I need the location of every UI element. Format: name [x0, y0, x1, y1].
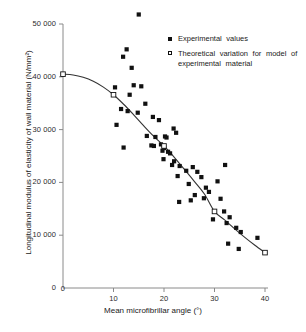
y-tick-label: 20 000 — [0, 177, 56, 186]
data-point-experimental — [151, 115, 155, 119]
data-point-experimental — [204, 186, 208, 190]
data-point-theoretical — [162, 144, 167, 149]
data-point-experimental — [225, 221, 229, 225]
legend-item-theoretical: Theoretical variation for model of exper… — [168, 49, 300, 70]
data-point-experimental — [228, 215, 232, 219]
y-tick-label: 30 000 — [0, 125, 56, 134]
data-point-experimental — [178, 164, 182, 168]
data-point-experimental — [164, 135, 168, 139]
open-square-icon — [168, 49, 178, 56]
y-tick-label: 10 000 — [0, 230, 56, 239]
y-tick-label: 40 000 — [0, 72, 56, 81]
chart-legend: Experimental values Theoretical variatio… — [168, 34, 300, 74]
legend-label-theoretical: Theoretical variation for model of exper… — [178, 49, 300, 70]
x-axis-label: Mean microfibrillar angle (°) — [0, 306, 306, 315]
data-point-experimental — [223, 163, 227, 167]
chart-figure: Longitudinal modulus of elasticity of wa… — [0, 0, 306, 332]
data-point-experimental — [234, 226, 238, 230]
data-point-experimental — [226, 242, 230, 246]
data-point-experimental — [119, 107, 123, 111]
data-point-experimental — [170, 163, 174, 167]
data-point-experimental — [172, 159, 176, 163]
data-point-experimental — [222, 209, 226, 213]
data-point-experimental — [114, 123, 118, 127]
y-tick-label: 50 000 — [0, 19, 56, 28]
data-point-experimental — [145, 134, 149, 138]
filled-square-icon — [168, 34, 178, 41]
data-point-experimental — [126, 109, 130, 113]
data-point-experimental — [125, 47, 129, 51]
data-point-experimental — [239, 230, 243, 234]
data-point-experimental — [184, 169, 188, 173]
data-point-experimental — [191, 165, 195, 169]
data-point-experimental — [128, 93, 132, 97]
x-tick-label: 0 — [43, 284, 83, 293]
x-tick-label: 10 — [94, 294, 134, 303]
data-point-theoretical — [61, 72, 66, 77]
data-point-experimental — [218, 197, 222, 201]
data-point-experimental — [152, 144, 156, 148]
data-point-experimental — [199, 175, 203, 179]
data-point-experimental — [215, 179, 219, 183]
data-point-experimental — [130, 66, 134, 70]
data-point-experimental — [136, 111, 140, 115]
y-axis-label: Longitudinal modulus of elasticity of wa… — [24, 29, 33, 277]
data-point-experimental — [176, 174, 180, 178]
data-point-experimental — [168, 151, 172, 155]
data-point-experimental — [174, 131, 178, 135]
data-point-experimental — [202, 196, 206, 200]
data-point-theoretical — [212, 209, 217, 214]
data-point-experimental — [121, 55, 125, 59]
data-point-experimental — [211, 217, 215, 221]
data-point-experimental — [172, 126, 176, 130]
legend-item-experimental: Experimental values — [168, 34, 300, 45]
data-point-experimental — [139, 84, 143, 88]
data-point-theoretical — [263, 250, 268, 255]
data-point-experimental — [189, 198, 193, 202]
data-point-experimental — [153, 135, 157, 139]
x-tick-label: 20 — [144, 294, 184, 303]
data-point-experimental — [237, 247, 241, 251]
x-tick-label: 40 — [245, 294, 285, 303]
data-point-experimental — [193, 193, 197, 197]
x-tick-label: 30 — [195, 294, 235, 303]
data-point-experimental — [187, 182, 191, 186]
data-point-experimental — [132, 83, 136, 87]
legend-label-experimental: Experimental values — [178, 34, 300, 45]
data-point-experimental — [160, 149, 164, 153]
data-point-experimental — [137, 12, 141, 16]
data-point-experimental — [161, 157, 165, 161]
data-point-experimental — [113, 85, 117, 89]
data-point-experimental — [255, 236, 259, 240]
data-point-experimental — [177, 200, 181, 204]
data-point-experimental — [143, 102, 147, 106]
data-point-theoretical — [111, 92, 116, 97]
data-point-experimental — [122, 145, 126, 149]
data-point-experimental — [195, 170, 199, 174]
data-point-experimental — [157, 118, 161, 122]
data-point-experimental — [207, 190, 211, 194]
